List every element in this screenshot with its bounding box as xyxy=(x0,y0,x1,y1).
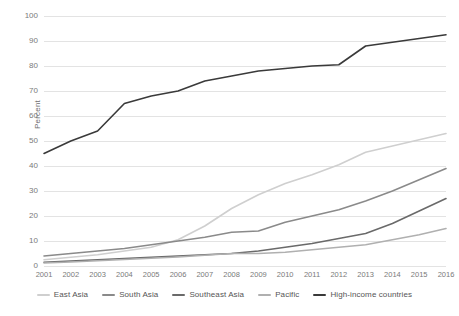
y-axis-tick-label: 90 xyxy=(12,36,38,45)
x-axis-tick-label: 2013 xyxy=(351,270,381,279)
legend-swatch-icon xyxy=(102,294,115,296)
y-axis-tick-label: 70 xyxy=(12,86,38,95)
legend-swatch-icon xyxy=(313,294,326,296)
y-axis-tick-label: 30 xyxy=(12,186,38,195)
legend-item[interactable]: South Asia xyxy=(102,290,158,299)
legend-swatch-icon xyxy=(37,294,50,296)
y-axis-tick-label: 50 xyxy=(12,136,38,145)
x-axis-tick-label: 2014 xyxy=(377,270,407,279)
legend-item[interactable]: Pacific xyxy=(258,290,299,299)
x-axis-tick-label: 2016 xyxy=(431,270,459,279)
x-axis-tick-label: 2010 xyxy=(270,270,300,279)
x-axis-tick-label: 2004 xyxy=(109,270,139,279)
series-line xyxy=(44,229,446,264)
y-axis-tick-label: 0 xyxy=(12,261,38,270)
x-axis-tick-label: 2009 xyxy=(243,270,273,279)
series-lines-layer xyxy=(44,16,446,266)
legend-item[interactable]: East Asia xyxy=(37,290,88,299)
series-line xyxy=(44,35,446,154)
y-axis-tick-label: 80 xyxy=(12,61,38,70)
legend-label: South Asia xyxy=(119,290,158,299)
x-axis-tick-label: 2011 xyxy=(297,270,327,279)
legend-label: Southeast Asia xyxy=(189,290,244,299)
y-axis-tick-label: 20 xyxy=(12,211,38,220)
x-axis-tick-label: 2012 xyxy=(324,270,354,279)
y-axis-tick-label: 100 xyxy=(12,11,38,20)
x-axis-tick-label: 2007 xyxy=(190,270,220,279)
series-line xyxy=(44,199,446,263)
plot-area: 0102030405060708090100 20012002200320042… xyxy=(44,16,446,266)
y-axis-tick-label: 60 xyxy=(12,111,38,120)
legend-label: High-income countries xyxy=(330,290,412,299)
series-line xyxy=(44,169,446,257)
x-axis-tick-label: 2008 xyxy=(217,270,247,279)
legend-label: Pacific xyxy=(275,290,299,299)
x-axis-tick-label: 2005 xyxy=(136,270,166,279)
gridline xyxy=(44,266,446,267)
legend-item[interactable]: High-income countries xyxy=(313,290,412,299)
legend-label: East Asia xyxy=(54,290,88,299)
chart-legend: East AsiaSouth AsiaSoutheast AsiaPacific… xyxy=(0,290,449,299)
legend-swatch-icon xyxy=(258,294,271,296)
y-axis-tick-label: 40 xyxy=(12,161,38,170)
legend-item[interactable]: Southeast Asia xyxy=(172,290,244,299)
y-axis-tick-label: 10 xyxy=(12,236,38,245)
x-axis-tick-label: 2006 xyxy=(163,270,193,279)
x-axis-tick-label: 2002 xyxy=(56,270,86,279)
x-axis-tick-label: 2003 xyxy=(83,270,113,279)
x-axis-tick-label: 2001 xyxy=(29,270,59,279)
legend-swatch-icon xyxy=(172,294,185,296)
x-axis-tick-label: 2015 xyxy=(404,270,434,279)
